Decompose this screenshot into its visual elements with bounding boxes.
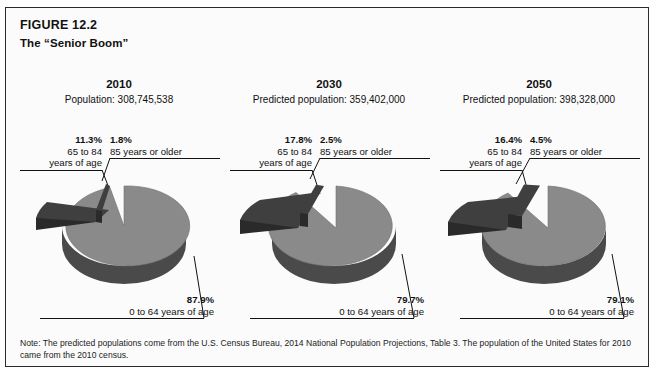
figure-title: The “Senior Boom” bbox=[20, 37, 128, 49]
slice-85-plus-side bbox=[300, 213, 308, 227]
pie-chart-2010 bbox=[14, 170, 224, 310]
slice-85-plus-side bbox=[508, 214, 522, 229]
pie-chart-2050 bbox=[434, 170, 644, 310]
slice-0-64-top bbox=[66, 186, 190, 266]
slice-85-plus-side bbox=[96, 210, 102, 223]
pie-panel-2010: 2010 Population: 308,745,538 11.3% 65 to… bbox=[14, 78, 224, 328]
figure-frame: FIGURE 12.2 The “Senior Boom” 2010 Popul… bbox=[5, 7, 649, 367]
pie-panel-2050: 2050 Predicted population: 398,328,000 1… bbox=[434, 78, 644, 328]
pie-panel-2030: 2030 Predicted population: 359,402,000 1… bbox=[224, 78, 434, 328]
pie-chart-2030 bbox=[224, 170, 434, 310]
figure-note: Note: The predicted populations come fro… bbox=[20, 338, 632, 361]
figure-number: FIGURE 12.2 bbox=[20, 18, 97, 32]
